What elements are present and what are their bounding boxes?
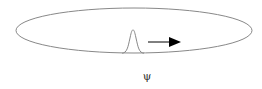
psi-label: ψ: [140, 71, 154, 82]
wave-packet-diagram: [0, 0, 262, 89]
direction-arrow-icon: [148, 37, 181, 47]
wave-packet-peak: [122, 30, 144, 53]
